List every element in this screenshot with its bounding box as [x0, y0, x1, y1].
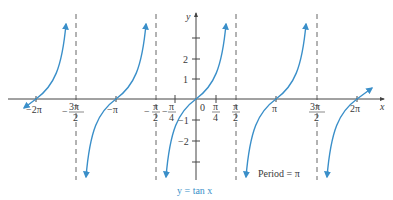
y-tick-labels: y 2 1 −1 −2: [178, 11, 191, 147]
label-y-1: 1: [183, 74, 188, 85]
period-annotation: Period = π: [258, 168, 300, 179]
label-neg-3pi-2-den: 2: [73, 112, 78, 123]
label-neg-pi: −π: [107, 104, 118, 115]
x-tick-labels: −2π − 3π 2 −π − π 2 − π 4 0 π 4 π 2 π 3π…: [26, 101, 385, 123]
label-neg-pi-4-sign: −: [162, 106, 168, 117]
label-pi-4-num: π: [213, 101, 218, 112]
label-neg-pi-2-num: π: [153, 101, 158, 112]
branch-right-2: [327, 88, 372, 177]
label-3pi-2-num: 3π: [310, 101, 320, 112]
label-y-neg-2: −2: [178, 136, 189, 147]
branch-left-2: [24, 24, 66, 108]
label-neg-3pi-2-sign: −: [62, 106, 68, 117]
label-pi-2-den: 2: [233, 112, 238, 123]
tangent-graph: −2π − 3π 2 −π − π 2 − π 4 0 π 4 π 2 π 3π…: [0, 0, 393, 200]
label-zero: 0: [200, 102, 205, 113]
label-neg-pi-2-sign: −: [144, 106, 150, 117]
label-neg-2pi: −2π: [26, 104, 42, 115]
label-y-2: 2: [183, 54, 188, 65]
curve-label: y = tan x: [177, 185, 212, 196]
label-pi: π: [272, 103, 277, 114]
label-pi-2-num: π: [233, 101, 238, 112]
label-neg-pi-2-den: 2: [153, 112, 158, 123]
label-pi-4-den: 4: [213, 112, 218, 123]
label-neg-3pi-2-num: 3π: [69, 101, 79, 112]
label-neg-pi-4-den: 4: [169, 112, 174, 123]
label-2pi: 2π: [350, 103, 360, 114]
y-axis-label: y: [185, 11, 191, 22]
label-y-neg-1: −1: [178, 115, 189, 126]
label-3pi-2-den: 2: [314, 112, 319, 123]
label-neg-pi-4-num: π: [169, 101, 174, 112]
x-axis-label: x: [379, 101, 385, 112]
